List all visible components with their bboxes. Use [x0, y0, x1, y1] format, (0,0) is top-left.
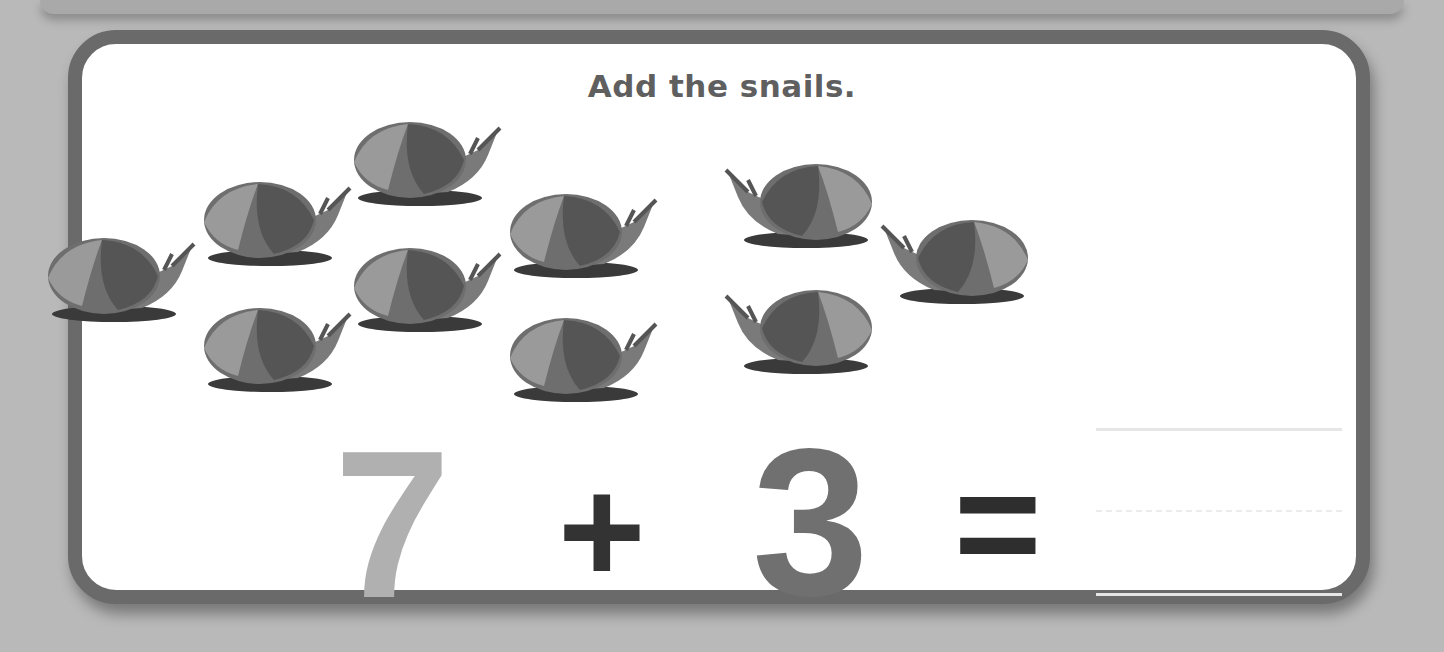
snail-icon: [22, 226, 198, 326]
snail-icon: [328, 236, 504, 336]
snail-icon: [722, 278, 898, 378]
plus-sign: +: [558, 456, 646, 606]
answer-line-top[interactable]: [1096, 428, 1342, 431]
instruction-title: Add the snails.: [0, 68, 1444, 104]
addend-1: 7: [334, 420, 451, 630]
equals-sign: =: [954, 448, 1042, 598]
snail-icon: [878, 208, 1054, 308]
top-band: [40, 0, 1404, 14]
answer-line-midline[interactable]: [1096, 510, 1342, 512]
addend-2: 3: [752, 418, 869, 628]
snail-icon: [484, 306, 660, 406]
snail-icon: [484, 182, 660, 282]
snail-icon: [722, 152, 898, 252]
answer-line-baseline[interactable]: [1096, 593, 1342, 596]
snail-icon: [328, 110, 504, 210]
